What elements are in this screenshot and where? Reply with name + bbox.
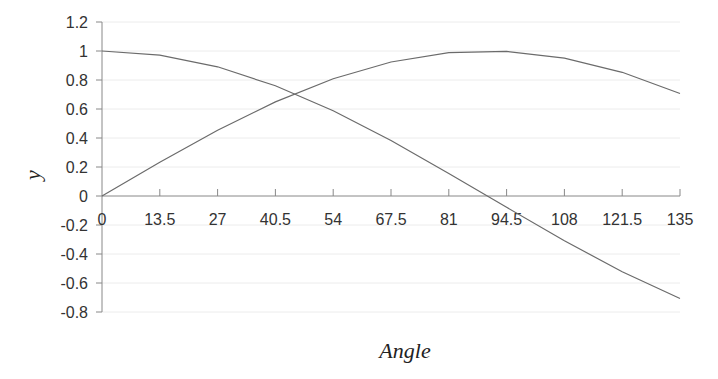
series-line-sin xyxy=(102,51,680,196)
y-tick-label: 1 xyxy=(79,43,88,60)
line-chart: 1.210.80.60.40.20-0.2-0.4-0.6-0.8 013.52… xyxy=(0,0,718,379)
x-tick-label: 40.5 xyxy=(260,211,291,228)
x-tick-label: 67.5 xyxy=(375,211,406,228)
y-tick-label: 0.8 xyxy=(66,72,88,89)
x-tick-label: 0 xyxy=(98,211,107,228)
x-tick-label: 135 xyxy=(667,211,694,228)
y-tick-label: 0 xyxy=(79,188,88,205)
y-tick-label: 0.2 xyxy=(66,159,88,176)
x-tick-label: 13.5 xyxy=(144,211,175,228)
y-tick-label: -0.2 xyxy=(60,217,88,234)
x-tick-label: 54 xyxy=(324,211,342,228)
x-tick-label: 121.5 xyxy=(602,211,642,228)
series-line-cos xyxy=(102,51,680,299)
x-axis-title: Angle xyxy=(377,338,431,363)
y-tick-label: 0.6 xyxy=(66,101,88,118)
y-axis-ticks: 1.210.80.60.40.20-0.2-0.4-0.6-0.8 xyxy=(60,14,102,321)
x-tick-label: 27 xyxy=(209,211,227,228)
y-tick-label: 1.2 xyxy=(66,14,88,31)
y-tick-label: 0.4 xyxy=(66,130,88,147)
data-series xyxy=(102,51,680,299)
y-tick-label: -0.8 xyxy=(60,304,88,321)
x-tick-label: 108 xyxy=(551,211,578,228)
x-axis-ticks: 013.52740.55467.58194.5108121.5135 xyxy=(98,189,694,228)
x-tick-label: 81 xyxy=(440,211,458,228)
y-tick-label: -0.6 xyxy=(60,275,88,292)
y-tick-label: -0.4 xyxy=(60,246,88,263)
y-axis-title: y xyxy=(20,170,45,182)
